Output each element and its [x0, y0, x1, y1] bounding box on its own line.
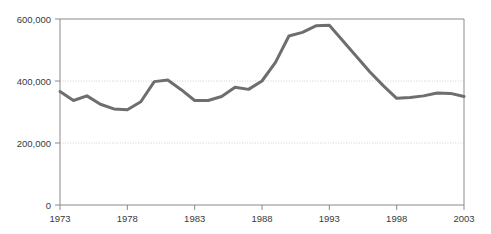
line-chart: 0200,000400,000600,000 19731978198319881… [0, 0, 491, 234]
x-tick-label-2003: 2003 [453, 213, 474, 224]
y-tick-label-600000: 600,000 [17, 14, 51, 25]
y-tick-label-200000: 200,000 [17, 138, 51, 149]
y-tick-label-400000: 400,000 [17, 76, 51, 87]
x-tick-label-1998: 1998 [386, 213, 407, 224]
x-tick-label-1973: 1973 [49, 213, 70, 224]
chart-background [0, 0, 491, 234]
x-tick-label-1993: 1993 [319, 213, 340, 224]
chart-canvas: 0200,000400,000600,000 19731978198319881… [0, 0, 491, 234]
x-tick-label-1988: 1988 [251, 213, 272, 224]
y-tick-label-0: 0 [46, 200, 51, 211]
x-tick-label-1983: 1983 [184, 213, 205, 224]
x-tick-label-1978: 1978 [117, 213, 138, 224]
